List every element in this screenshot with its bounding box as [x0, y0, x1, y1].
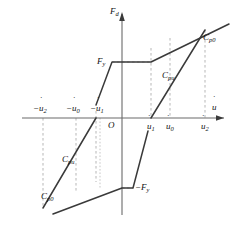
tick-label-pos-u0: u0: [166, 122, 174, 131]
hysteresis-loop-figure: Fd u O Fy −Fy −u2 −u0 −u1 u1 u0 u2 Cp0: [0, 0, 246, 240]
label-c-p0-upper-right: Cp0: [203, 33, 216, 42]
tick-label-neg-u0: −u0: [66, 104, 80, 113]
y-axis-label: Fd: [110, 7, 119, 16]
label-negative-yield-force: −Fy: [135, 183, 149, 192]
curve-upper-unloading: [151, 30, 205, 118]
tick-label-pos-u2: u2: [201, 122, 209, 131]
curve-lower-unloading: [53, 131, 148, 214]
x-axis-label: u: [212, 103, 217, 112]
label-positive-yield-force: Fy: [97, 57, 105, 66]
label-c-pu-right: Cpu: [162, 71, 175, 80]
tick-label-neg-u1: −u1: [90, 104, 104, 113]
x-axis-arrow: [216, 115, 224, 121]
tick-label-pos-u1: u1: [147, 122, 155, 131]
label-c-p0-lower-left: Cp0: [41, 192, 54, 201]
guide-lines-group: [43, 30, 205, 208]
axes-group: [22, 12, 224, 215]
tick-label-neg-u2: −u2: [33, 104, 47, 113]
label-c-pu-left: Cpu: [62, 155, 75, 164]
y-axis-arrow: [119, 12, 125, 21]
origin-label: O: [108, 121, 115, 130]
